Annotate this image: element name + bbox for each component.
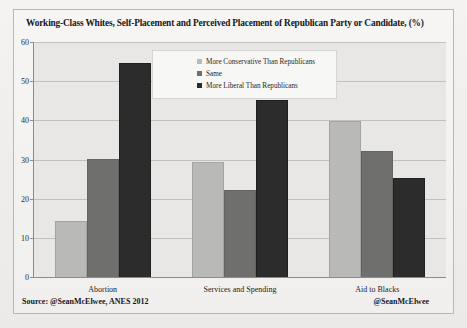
y-axis-label: 50 bbox=[21, 77, 29, 86]
bar bbox=[361, 151, 393, 277]
legend-item: More Liberal Than Republicans bbox=[197, 80, 330, 91]
legend-swatch-icon bbox=[197, 59, 202, 64]
x-axis-label: Abortion bbox=[88, 285, 117, 294]
x-axis-label: Aid to Blacks bbox=[355, 285, 399, 294]
legend-label: More Conservative Than Republicans bbox=[206, 58, 315, 66]
source-note: Source: @SeanMcElwee, ANES 2012 bbox=[22, 297, 148, 306]
y-axis-tick bbox=[30, 277, 34, 278]
x-axis-label: Services and Spending bbox=[204, 285, 277, 294]
chart-page: Working-Class Whites, Self-Placement and… bbox=[0, 0, 467, 328]
bar bbox=[119, 63, 151, 277]
y-axis-label: 60 bbox=[21, 38, 29, 47]
legend-swatch-icon bbox=[197, 83, 202, 88]
y-axis-label: 20 bbox=[21, 194, 29, 203]
bar bbox=[192, 162, 224, 277]
y-axis-label: 10 bbox=[21, 233, 29, 242]
legend-label: More Liberal Than Republicans bbox=[206, 82, 298, 90]
legend-item: Same bbox=[197, 68, 330, 79]
chart-legend: More Conservative Than RepublicansSameMo… bbox=[152, 50, 337, 99]
legend-swatch-icon bbox=[197, 71, 202, 76]
bar bbox=[393, 178, 425, 277]
legend-label: Same bbox=[206, 70, 222, 78]
handle-note: @SeanMcElwee bbox=[374, 297, 429, 306]
y-axis-label: 0 bbox=[25, 273, 29, 282]
bar bbox=[329, 121, 361, 277]
bar bbox=[224, 190, 256, 277]
y-axis-label: 30 bbox=[21, 155, 29, 164]
y-axis-label: 40 bbox=[21, 116, 29, 125]
legend-item: More Conservative Than Republicans bbox=[197, 56, 330, 67]
bar-group: Abortion bbox=[34, 42, 171, 277]
bar bbox=[55, 221, 87, 277]
bar bbox=[87, 159, 119, 278]
chart-title: Working-Class Whites, Self-Placement and… bbox=[26, 18, 446, 28]
bar bbox=[256, 100, 288, 277]
